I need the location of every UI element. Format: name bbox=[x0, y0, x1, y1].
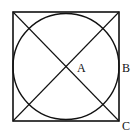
geometry-diagram: A B C bbox=[0, 0, 134, 136]
label-a: A bbox=[77, 61, 86, 75]
label-c: C bbox=[122, 119, 130, 133]
label-b: B bbox=[122, 61, 130, 75]
